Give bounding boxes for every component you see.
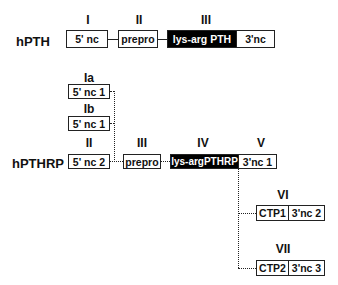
hpth-exon-prepro: prepro [118,30,158,48]
exon-label-iii: III [127,136,157,150]
hpthrp-exon-vi-ctp1: CTP1 [256,205,289,221]
exon-label-ia: Ia [74,71,104,85]
hpth-gene-label: hPTH [16,34,50,49]
splice-connector [238,213,256,214]
exon-label-ii: II [124,13,154,27]
splice-connector [161,161,170,162]
hpthrp-exon-ia: 5' nc 1 [68,84,110,99]
hpthrp-exon-v: 3'nc 1 [238,154,277,169]
exon-label-v: V [246,136,276,150]
exon-label-vi: VI [268,188,298,202]
hpthrp-exon-ib: 5' nc 1 [68,116,110,131]
intron-line [108,39,118,40]
hpth-exon-3nc: 3'nc [236,30,275,48]
exon-label-iv: IV [188,136,218,150]
hpthrp-exon-vii-ctp2: CTP2 [256,260,289,276]
exon-label-vii: VII [268,242,298,256]
hpthrp-exon-vii-3nc3: 3'nc 3 [288,260,325,276]
splice-connector [238,268,256,269]
exon-label-ib: Ib [74,102,104,116]
exon-label-iii: III [191,13,221,27]
hpth-exon-lys-arg-pth: lys-arg PTH [167,30,237,48]
splice-connector [110,161,123,162]
hpthrp-exon-iv-lys-arg-pthrp: lys-argPTHRP [170,154,239,169]
hpthrp-exon-vi-3nc2: 3'nc 2 [288,205,325,221]
exon-label-i: I [73,13,103,27]
exon-label-ii: II [74,136,104,150]
splice-connector [238,169,239,268]
hpth-exon-5nc: 5' nc [66,30,108,48]
hpthrp-gene-label: hPTHRP [12,156,64,171]
splice-connector [114,91,115,162]
hpthrp-exon-iii-prepro: prepro [123,154,161,169]
intron-line [158,39,167,40]
hpthrp-exon-ii: 5' nc 2 [68,154,110,169]
